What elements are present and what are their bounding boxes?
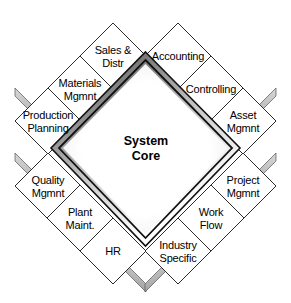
diagram-canvas	[0, 0, 291, 303]
sap-module-diagram: Sales & Distr Accounting Materials Mgmnt…	[0, 0, 291, 303]
